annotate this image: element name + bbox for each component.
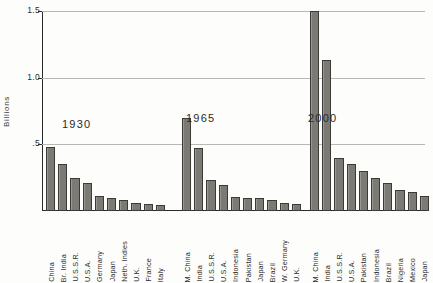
category-label: Germany [95, 251, 104, 282]
bar-2000-USA [347, 164, 356, 211]
group-year-label-1930: 1930 [62, 118, 91, 130]
y-axis-ticks: 1.51.0.5 [14, 0, 40, 283]
bar-1965-UK [292, 204, 301, 211]
y-axis-label: Billions [2, 96, 11, 127]
bar-1930-UK [131, 203, 140, 211]
bar-1930-USA [83, 183, 92, 211]
y-tickmark [38, 11, 42, 12]
category-label: U.S.S.R. [207, 252, 216, 282]
group-year-label-2000: 2000 [308, 112, 337, 124]
category-label: Brazil [268, 263, 277, 282]
category-label: M. China [183, 252, 192, 282]
gridline-1p0 [42, 78, 425, 79]
category-label: Mexico [408, 258, 417, 282]
bar-1930-Germany [95, 196, 104, 211]
group-year-label-1965: 1965 [186, 112, 215, 124]
bar-2000-Nigeria [395, 190, 404, 211]
category-label: U.K. [292, 267, 301, 282]
category-label: China [47, 262, 56, 282]
bar-2000-India [322, 60, 331, 211]
bar-1930-BrIndia [58, 164, 67, 211]
bar-2000-Indonesia [371, 178, 380, 211]
category-label-layer: ChinaBr. IndiaU.S.S.R.U.S.A.GermanyJapan… [42, 216, 425, 282]
bar-1930-Italy [156, 205, 165, 211]
category-label: Brazil [384, 263, 393, 282]
bar-2000-Japan [420, 196, 429, 211]
category-label: U.S.A. [347, 260, 356, 282]
category-label: U.S.A. [219, 260, 228, 282]
y-tickmark [38, 144, 42, 145]
category-label: Pakistan [359, 253, 368, 282]
bar-1965-India [194, 148, 203, 211]
bar-2000-Brazil [383, 183, 392, 211]
category-label: U.K. [132, 267, 141, 282]
category-label: Italy [156, 268, 165, 282]
bar-1930-France [144, 204, 153, 211]
category-label: Japan [420, 261, 429, 282]
category-label: M. China [311, 252, 320, 282]
category-label: Pakistan [244, 253, 253, 282]
category-label: U.S.S.R. [71, 252, 80, 282]
y-axis-line [42, 11, 43, 211]
bar-1965-Brazil [267, 200, 276, 211]
category-label: France [144, 258, 153, 282]
gridline-1p5 [42, 11, 425, 12]
category-label: W. Germany [280, 240, 289, 282]
bar-1930-Japan [107, 198, 116, 211]
bar-1965-USSR [206, 180, 215, 211]
bar-1930-China [46, 147, 55, 211]
bar-1930-USSR [70, 178, 79, 211]
bar-1930-NethIndies [119, 200, 128, 211]
y-tick-label: 1.0 [16, 72, 40, 82]
bar-2000-Mexico [408, 192, 417, 211]
bar-1965-Japan [255, 198, 264, 211]
category-label: Neth. Indies [120, 241, 129, 282]
category-label: Nigeria [396, 258, 405, 282]
bar-2000-USSR [334, 158, 343, 211]
category-label: Japan [108, 261, 117, 282]
y-tickmark [38, 78, 42, 79]
category-label: Indonesia [372, 249, 381, 282]
bar-1965-Indonesia [231, 197, 240, 211]
y-tick-label: .5 [16, 138, 40, 148]
category-label: India [323, 265, 332, 282]
category-label: India [195, 265, 204, 282]
y-tick-label: 1.5 [16, 5, 40, 15]
bar-1965-Pakistan [243, 198, 252, 211]
bar-1965-WGermany [280, 203, 289, 211]
category-label: Indonesia [231, 249, 240, 282]
bar-1965-USA [219, 185, 228, 211]
plot-area [42, 11, 425, 211]
category-label: U.S.A. [83, 260, 92, 282]
category-label: Japan [256, 261, 265, 282]
category-label: U.S.S.R. [335, 252, 344, 282]
population-bar-chart: Billions 1.51.0.5 ChinaBr. IndiaU.S.S.R.… [0, 0, 433, 283]
bar-2000-Pakistan [359, 171, 368, 211]
category-label: Br. India [59, 254, 68, 282]
gridline-p5 [42, 144, 425, 145]
bar-2000-MChina [310, 11, 319, 211]
bar-1965-MChina [182, 118, 191, 211]
